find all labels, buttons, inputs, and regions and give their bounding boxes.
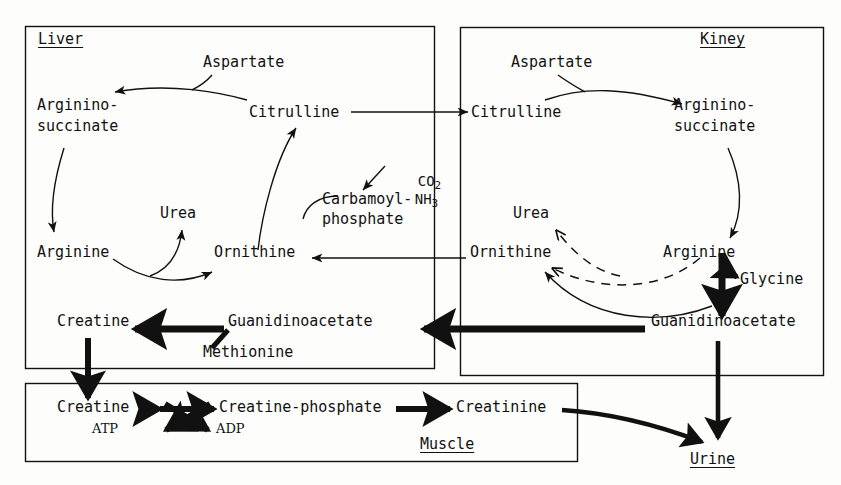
metabolite-kidney-citrulline: Citrulline	[471, 105, 561, 120]
arrow-adp-released	[165, 404, 208, 430]
metabolite-kidney-urea: Urea	[513, 206, 549, 221]
metabolite-liver-argininosuccinate-line1: Arginino-	[37, 97, 118, 113]
metabolite-liver-arginine: Arginine	[37, 245, 109, 260]
arrow-kidney-arginine-to-ornithine-dashed	[552, 258, 700, 285]
metabolite-liver-ornithine: Ornithine	[214, 245, 295, 260]
metabolite-kidney-guanidinoacetate: Guanidinoacetate	[651, 314, 796, 329]
metabolite-liver-creatine: Creatine	[57, 314, 129, 329]
arrow-kidney-aspartate-in	[558, 75, 585, 92]
metabolite-muscle-adp: ADP	[216, 421, 245, 436]
arrow-kidney-argininosuccinate-to-arginine	[728, 148, 740, 238]
metabolite-muscle-atp: ATP	[92, 421, 118, 436]
pathway-diagram: Liver Kiney Muscle Aspartate Arginino- s…	[0, 0, 841, 485]
arrow-liver-citrulline-to-argininosuccinate	[115, 88, 247, 100]
arrow-kidney-citrulline-to-argininosuccinate	[545, 91, 682, 104]
compartment-title-muscle: Muscle	[420, 437, 474, 452]
metabolite-liver-urea: Urea	[160, 206, 196, 221]
metabolite-liver-argininosuccinate-line2: succinate	[37, 118, 118, 134]
metabolite-kidney-argininosuccinate-line1: Arginino-	[674, 97, 755, 113]
metabolite-kidney-glycine: Glycine	[740, 272, 803, 287]
excretion-urine-label: Urine	[690, 452, 735, 467]
metabolite-kidney-aspartate: Aspartate	[511, 55, 592, 70]
arrow-liver-arginine-to-urea	[150, 230, 182, 276]
nh3-text: NH	[415, 191, 432, 207]
compartment-title-kidney: Kiney	[700, 32, 745, 47]
metabolite-muscle-creatine-phosphate: Creatine-phosphate	[219, 400, 382, 415]
metabolite-kidney-ornithine: Ornithine	[470, 245, 551, 260]
metabolite-kidney-arginine: Arginine	[663, 245, 735, 260]
metabolite-muscle-creatinine: Creatinine	[456, 400, 546, 415]
metabolite-liver-guanidinoacetate: Guanidinoacetate	[228, 314, 373, 329]
arrow-liver-aspartate-in	[192, 75, 212, 90]
arrow-kidney-guanidinoacetate-to-ornithine	[545, 272, 712, 317]
metabolite-liver-aspartate: Aspartate	[203, 55, 284, 70]
nh3-subscript: 3	[432, 197, 439, 210]
arrow-liver-ornithine-to-citrulline	[258, 128, 296, 250]
arrow-liver-arginine-to-ornithine	[113, 259, 212, 280]
arrow-creatinine-to-urine	[562, 410, 702, 442]
arrow-liver-argininosuccinate-to-arginine	[52, 148, 64, 232]
metabolite-liver-carbamoyl-phosphate-line1: Carbamoyl-	[322, 191, 412, 207]
compartment-title-liver: Liver	[38, 32, 83, 47]
metabolite-liver-carbamoyl-phosphate-line2: phosphate	[322, 211, 403, 227]
arrow-kidney-arginine-to-urea-dashed	[556, 230, 620, 276]
metabolite-liver-methionine: Methionine	[203, 345, 293, 360]
metabolite-liver-citrulline: Citrulline	[249, 105, 339, 120]
metabolite-kidney-argininosuccinate-line2: succinate	[674, 118, 755, 134]
arrow-glycine-into-guanidinoacetate	[722, 268, 737, 277]
metabolite-muscle-creatine: Creatine	[57, 400, 129, 415]
arrow-atp-consumed	[166, 404, 210, 430]
